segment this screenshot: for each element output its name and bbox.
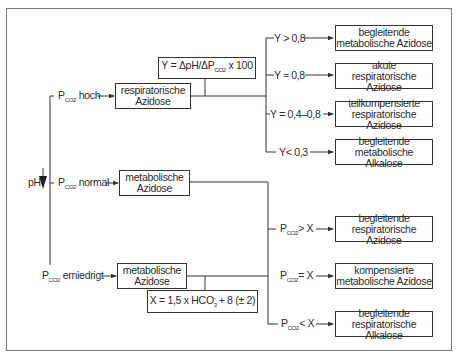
- outcome-metabolic-acidosis-box: begleitendemetabolische Azidose: [335, 25, 433, 51]
- y-gt-08-label: Y > 0,8: [274, 32, 305, 44]
- pco2-high-label: PCO2 hoch: [58, 89, 100, 106]
- pco2-lt-x-label: PCO2< X: [281, 317, 314, 334]
- pco2-normal-label: PCO2 normal: [58, 176, 109, 193]
- y-04-08-label: Y = 0,4–0,8: [270, 108, 321, 120]
- respiratory-acidosis-box: respiratorischeAzidose: [115, 83, 191, 109]
- metabolic-acidosis-normal-box: metabolischeAzidose: [119, 170, 190, 196]
- outcome-acute-respiratory-acidosis-box: akuterespiratorische Azidose: [335, 63, 433, 89]
- pco2-low-label: PCO2 erniedrigt: [42, 269, 104, 286]
- outcome-compensated-metabolic-acidosis-box: kompensiertemetabolische Azidose: [335, 263, 433, 289]
- ph-label: pH: [28, 176, 41, 188]
- metabolic-acidosis-low-box: metabolischeAzidose: [117, 263, 187, 289]
- outcome-respiratory-alkalosis-box: begleitenderespiratorische Alkalose: [335, 311, 433, 337]
- outcome-metabolic-alkalosis-box: begleitendemetabolische Alkalose: [335, 139, 433, 165]
- pco2-eq-x-label: PCO2= X: [280, 269, 313, 286]
- x-formula-box: X = 1,5 x HCO3− + 8 (± 2): [147, 290, 258, 313]
- y-lt-03-label: Y< 0,3: [279, 146, 308, 158]
- y-formula-box: Y = ΔpH/ΔPCO2 x 100: [158, 57, 256, 79]
- y-approx-08-label: Y ≈ 0,8: [274, 69, 305, 81]
- pco2-gt-x-label: PCO2> X: [280, 222, 313, 239]
- outcome-partially-compensated-box: teilkompensierterespiratorische Azidose: [335, 101, 433, 127]
- outcome-respiratory-acidosis-box: begleitenderespiratorische Azidose: [335, 216, 433, 242]
